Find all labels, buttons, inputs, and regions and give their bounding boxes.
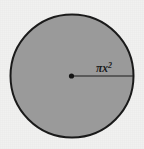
radius-label-base: πx (96, 62, 108, 74)
circle-area-diagram: πx2 (0, 0, 144, 149)
radius-label-exponent: 2 (107, 61, 112, 70)
figure-svg: πx2 (0, 0, 144, 149)
center-point-dot (69, 73, 74, 78)
